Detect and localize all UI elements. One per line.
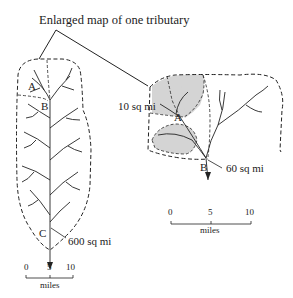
right-point-a-label: A [174, 112, 182, 123]
right-scale-bar [171, 221, 251, 224]
right-scale-tick-5: 5 [208, 208, 213, 217]
drainage-basin-diagram: Enlarged map of one tributary A B C 600 … [0, 0, 293, 298]
right-scale-units: miles [200, 226, 220, 235]
diagram-graphics [0, 0, 293, 298]
left-scale-bar [26, 275, 73, 278]
right-scale-tick-0: 0 [168, 208, 173, 217]
left-scale-tick-10: 10 [66, 263, 75, 272]
left-scale-tick-0: 0 [24, 263, 29, 272]
left-point-a-label: A [28, 81, 36, 92]
callout-line-left [39, 30, 56, 59]
left-scale-units: miles [40, 281, 60, 290]
left-area-label: 600 sq mi [68, 236, 111, 247]
callout-line-right [56, 30, 148, 86]
right-area-label-a: 10 sq mi [118, 101, 156, 112]
right-scale-tick-10: 10 [245, 208, 254, 217]
left-scale-tick-5: 5 [47, 263, 52, 272]
right-outlet-arrow [205, 172, 211, 180]
diagram-title: Enlarged map of one tributary [39, 14, 189, 27]
left-point-b-label: B [41, 101, 48, 112]
left-point-c-label: C [39, 228, 46, 239]
right-point-b-label: B [200, 162, 207, 173]
right-area-label-b: 60 sq mi [226, 163, 264, 174]
